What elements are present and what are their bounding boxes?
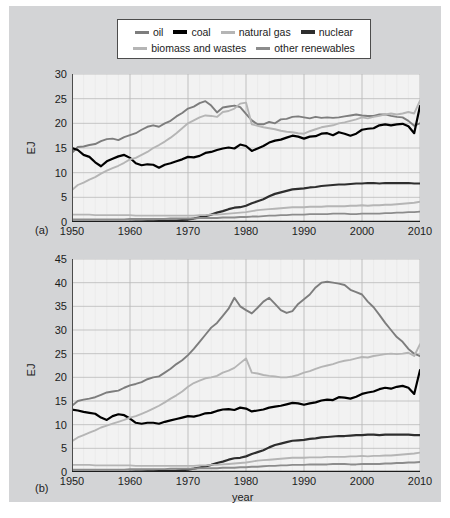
legend-item-oil: oil	[135, 27, 164, 38]
panel-tag-a: (a)	[35, 224, 48, 236]
plot-area-a: 0510152025301950196019701980199020002010	[72, 74, 420, 222]
x-tick-label: 1970	[176, 475, 200, 487]
x-tick-label: 1960	[118, 225, 142, 237]
x-tick-label: 2010	[408, 225, 432, 237]
chart-svg	[72, 259, 420, 472]
plot-area-b: 0510152025303540451950196019701980199020…	[72, 259, 420, 472]
y-tick-label: 5	[61, 191, 67, 203]
legend-label: biomass and wastes	[151, 43, 246, 54]
y-axis-title-a: EJ	[25, 142, 37, 155]
y-tick-label: 15	[55, 142, 67, 154]
legend-row-2: biomass and wastesother renewables	[118, 40, 370, 56]
x-tick-label: 2000	[350, 475, 374, 487]
x-tick-label: 2000	[350, 225, 374, 237]
y-tick-label: 30	[55, 68, 67, 80]
chart-panel-b: EJ 0510152025303540451950196019701980199…	[9, 244, 441, 502]
legend-swatch-icon	[256, 47, 270, 50]
chart-legend: oilcoalnatural gasnuclear biomass and wa…	[117, 19, 371, 59]
legend-swatch-icon	[135, 31, 149, 34]
figure-canvas: oilcoalnatural gasnuclear biomass and wa…	[9, 6, 441, 502]
legend-label: coal	[191, 27, 210, 38]
y-tick-label: 30	[55, 324, 67, 336]
x-tick-label: 1970	[176, 225, 200, 237]
chart-panel-a: EJ 0510152025301950196019701980199020002…	[9, 64, 441, 244]
x-tick-label: 1960	[118, 475, 142, 487]
y-tick-label: 5	[61, 442, 67, 454]
legend-label: other renewables	[274, 43, 355, 54]
legend-item-natural-gas: natural gas	[221, 27, 291, 38]
legend-swatch-icon	[221, 31, 235, 34]
x-tick-label: 2010	[408, 475, 432, 487]
legend-label: nuclear	[319, 27, 353, 38]
y-tick-label: 40	[55, 277, 67, 289]
y-tick-label: 35	[55, 300, 67, 312]
legend-swatch-icon	[173, 30, 187, 34]
x-tick-label: 1980	[234, 225, 258, 237]
y-tick-label: 20	[55, 371, 67, 383]
legend-item-other-renewables: other renewables	[256, 43, 355, 54]
x-tick-label: 1980	[234, 475, 258, 487]
legend-item-nuclear: nuclear	[301, 27, 353, 38]
legend-item-biomass-and-wastes: biomass and wastes	[133, 43, 246, 54]
x-tick-label: 1950	[60, 475, 84, 487]
legend-item-coal: coal	[173, 27, 210, 38]
x-axis-title-b: year	[232, 491, 253, 503]
y-tick-label: 10	[55, 167, 67, 179]
y-tick-label: 25	[55, 93, 67, 105]
y-axis-title-b: EJ	[25, 364, 37, 377]
legend-label: oil	[153, 27, 164, 38]
y-tick-label: 25	[55, 348, 67, 360]
x-tick-label: 1990	[292, 225, 316, 237]
legend-row-1: oilcoalnatural gasnuclear	[118, 24, 370, 40]
y-tick-label: 10	[55, 419, 67, 431]
legend-label: natural gas	[239, 27, 291, 38]
legend-swatch-icon	[133, 47, 147, 50]
legend-swatch-icon	[301, 30, 315, 34]
y-tick-label: 20	[55, 117, 67, 129]
y-tick-label: 15	[55, 395, 67, 407]
panel-tag-b: (b)	[35, 482, 48, 494]
chart-svg	[72, 74, 420, 222]
x-tick-label: 1990	[292, 475, 316, 487]
x-tick-label: 1950	[60, 225, 84, 237]
y-tick-label: 45	[55, 253, 67, 265]
